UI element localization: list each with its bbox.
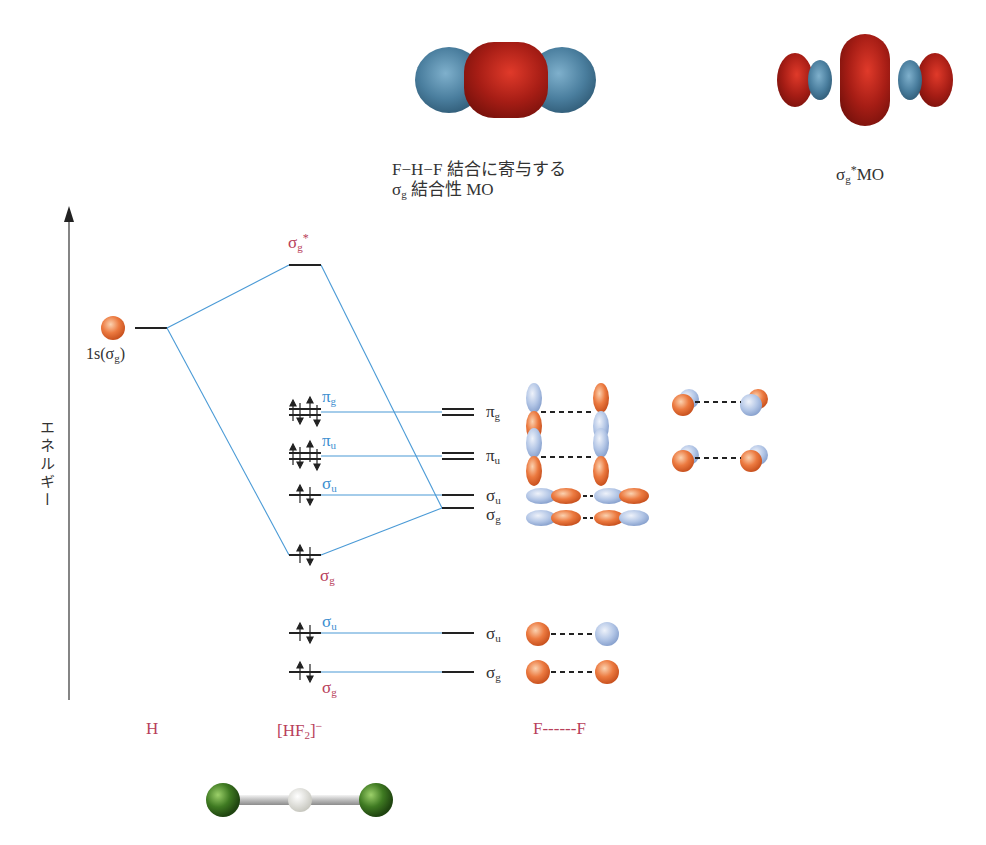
sigma-u-s-orbitals-icon	[526, 622, 619, 646]
pi-u-sphere-pair-icon	[672, 445, 768, 472]
hf2-sigma-g-star-label: σg*	[288, 232, 309, 253]
energy-axis-label: エネルギー	[36, 420, 57, 510]
ff-sigma-u-label: σu	[486, 487, 501, 506]
hf2-pi-g-label: πg	[322, 388, 336, 407]
bonding-mo-caption-line2: σg 結合性 MO	[392, 180, 566, 204]
bonding-mo-caption: F−H−F 結合に寄与する σg 結合性 MO	[392, 160, 566, 204]
pi-g-sphere-pair-icon	[672, 389, 768, 416]
ff-pi-u-label: πu	[486, 447, 500, 466]
hf2-sigma-u-low-label: σu	[322, 613, 337, 632]
electron-pairs	[290, 397, 320, 682]
ff-pi-g-label: πg	[486, 403, 500, 422]
ff-levels	[442, 409, 474, 672]
ff-sigma-g-low-label: σg	[486, 664, 501, 683]
bonding-mo-caption-line1: F−H−F 結合に寄与する	[392, 160, 566, 180]
h-1s-orbital-icon	[101, 316, 125, 340]
ff-sigma-u-low-label: σu	[486, 625, 501, 644]
h-1s-label: 1s(σg)	[86, 346, 125, 364]
hf2-pi-u-label: πu	[322, 432, 336, 451]
sigma-u-p-orbitals-icon	[526, 488, 649, 504]
hf2-sigma-u-mid-label: σu	[322, 475, 337, 494]
sigma-g-s-orbitals-icon	[526, 660, 619, 684]
energy-axis	[64, 206, 74, 700]
h-column-label: H	[146, 720, 158, 737]
antibonding-mo-image	[777, 34, 953, 126]
hf2-sigma-g-mid-label: σg	[320, 567, 335, 586]
hf2-column-label: [HF2]−	[277, 720, 322, 741]
sigma-g-p-orbitals-icon	[526, 510, 649, 526]
hf2-ball-stick-model	[206, 783, 393, 817]
correlation-lines	[167, 265, 442, 672]
ff-sigma-g-label: σg	[486, 506, 501, 525]
bonding-mo-image	[415, 42, 596, 118]
hf2-sigma-g-low-label: σg	[322, 679, 337, 698]
antibonding-mo-caption: σg*MO	[836, 160, 884, 189]
ff-column-label: F------F	[533, 720, 586, 737]
pi-u-orbitals-icon	[526, 428, 609, 486]
